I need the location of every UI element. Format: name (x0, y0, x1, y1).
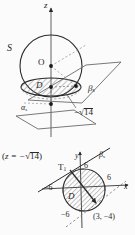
point-label-3-minus4: (3, −4) (93, 213, 115, 221)
tangent-label-T1: T1 (58, 163, 66, 173)
tick-label-x-neg: −6 (44, 184, 53, 192)
upper-diagram-group (16, 8, 121, 137)
beta-subscript-lower: s (103, 154, 105, 159)
center-point-O (49, 64, 53, 68)
tick-label-y-neg: −6 (61, 211, 70, 219)
radical-bar-lower (30, 152, 39, 153)
disk-label-D-lower: D (68, 192, 75, 201)
lower-plane-point (49, 102, 53, 106)
sqrt-14-upper: √14 (79, 108, 93, 117)
height-leader-line (66, 93, 76, 108)
sphere-label-S: S (7, 43, 12, 53)
alpha-plane-dashed (24, 103, 51, 104)
plane-beta-label-upper: βs (88, 84, 95, 94)
equation-text: z = − (5, 151, 25, 161)
plane-beta-label-lower: βs (99, 151, 105, 160)
tangent-subscript: 1 (64, 166, 67, 172)
plane-equation-label: (z = −√14) (2, 152, 42, 161)
disk-rim-point (74, 84, 78, 88)
beta-subscript-upper: s (92, 87, 94, 93)
paren-close: ) (39, 151, 42, 161)
radical-bar-upper (84, 108, 93, 109)
sqrt-14-lower: √14 (25, 152, 39, 161)
disk-label-D-upper: D (36, 81, 43, 90)
disk-center-point (49, 85, 53, 89)
sphere-center-label-O: O (38, 58, 45, 67)
math-figure: z S O D αs βs −√14 (z = −√14) T1 y x βs … (0, 0, 135, 235)
alpha-subscript: s (25, 107, 27, 112)
x-axis-label: x (124, 183, 128, 191)
plane-height-label: −√14 (74, 108, 93, 117)
z-axis-label: z (44, 1, 48, 10)
plane-alpha-label: αs (21, 104, 27, 113)
y-axis-label: y (75, 152, 79, 160)
tick-label-x-pos: 6 (107, 174, 111, 182)
disk-D-circle (63, 169, 105, 211)
tick-label-y-pos: 6 (84, 162, 88, 170)
